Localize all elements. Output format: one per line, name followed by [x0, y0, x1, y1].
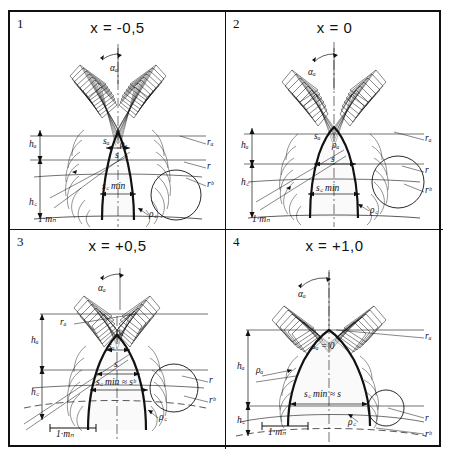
panel-3: 3 x = +0,5 [10, 230, 226, 449]
leader-ra [180, 136, 206, 144]
leader-ra [336, 330, 424, 338]
panel-4-sfmin-label: s꜀ min ≈ s [304, 390, 341, 400]
panel-3-hf-label: h꜀ [31, 388, 39, 398]
leader-r [388, 408, 424, 418]
panel-2-alpha-a-label: αₐ [308, 68, 316, 78]
panel-3-sfmin-label: s꜀ min ≈ sᵇ [96, 378, 136, 388]
alpha-a-arc [314, 54, 334, 62]
panel-2-rho-f-label: ρ꜀ [370, 206, 378, 216]
root-fillet-arcs-left [67, 346, 86, 431]
panel-3-r-label: r [209, 376, 213, 386]
panel-3-ra-label: rₐ [60, 318, 66, 328]
leader-rb [376, 428, 424, 434]
panel-3-alpha-a-label: αₐ [98, 284, 106, 294]
panel-1-rho-a-label: ρₐ [120, 140, 127, 150]
panel-2-rho-a-label: ρₐ [332, 141, 339, 151]
panel-4-ha-label: hₐ [237, 362, 245, 372]
panel-4-rb-label: rᵇ [425, 430, 431, 440]
leader-ra [394, 132, 424, 140]
rack-cutter-left-family [282, 70, 328, 126]
leader-rb [186, 178, 206, 186]
panel-3-ha-label: hₐ [31, 336, 39, 346]
rack-cutter-right-family [340, 70, 386, 126]
panel-2: 2 x = 0 [226, 12, 443, 230]
panel-3-rb-label: rᵇ [209, 396, 215, 406]
rack-cutter-right-family [119, 65, 166, 118]
panel-1-drawing [10, 12, 226, 230]
alpha-a-arc [300, 278, 326, 288]
panel-1-hf-label: h꜀ [29, 198, 37, 208]
panel-1-ha-label: hₐ [29, 140, 37, 150]
panel-3-rho-a-label: ρₐ [116, 328, 123, 338]
rack-cutter-left-family [74, 296, 118, 347]
panel-1-s-label: s [115, 151, 119, 161]
leader-r [184, 162, 206, 168]
panel-1-sa-label: sₐ [103, 137, 109, 147]
figure-frame: 1 x = -0,5 [8, 10, 441, 447]
panel-2-s-label: s [331, 155, 335, 165]
alpha-a-arc [102, 274, 120, 280]
panel-4-drawing [226, 230, 443, 449]
root-circle-line [236, 429, 426, 437]
panel-4-scale-label: 1·mₙ [268, 428, 286, 438]
figure-page: 1 x = -0,5 [0, 0, 451, 456]
panel-1-sfmin-label: s꜀ min [102, 182, 125, 192]
panel-2-ha-label: hₐ [241, 141, 249, 151]
rack-cutter-right-family [116, 296, 160, 347]
panel-4-rho-f-label: ρ꜀ [348, 418, 356, 428]
base-circle-arc [150, 364, 198, 412]
panel-3-scale-label: 1·mₙ [56, 430, 74, 440]
panel-1-scale-label: 1·mₙ [38, 215, 56, 225]
panel-2-scale-label: 1·mₙ [252, 215, 270, 225]
panel-4: 4 x = +1,0 [226, 230, 443, 449]
panel-3-drawing [10, 230, 226, 449]
panel-2-drawing [226, 12, 443, 230]
panel-1-rb-label: rᵇ [207, 180, 213, 190]
panel-1-ra-label: rₐ [207, 138, 213, 148]
panel-4-sa-zero-label: sₐ = 0 [312, 342, 334, 352]
panel-3-rho-f-label: ρ꜀ [159, 413, 167, 423]
alpha-a-arc [102, 54, 118, 60]
panel-2-sa-label: sₐ [314, 132, 320, 142]
panel-3-sa-label: sₐ [108, 342, 114, 352]
panel-4-r-label: r [425, 414, 429, 424]
panel-3-s-label: s [114, 360, 118, 370]
panel-2-ra-label: rₐ [425, 134, 431, 144]
panel-1-r-label: r [207, 162, 211, 172]
base-circle-arc [368, 390, 404, 426]
panel-2-rb-label: rᵇ [425, 186, 431, 196]
panel-4-ra-label: rₐ [425, 332, 431, 342]
panel-2-r-label: r [425, 166, 429, 176]
panel-4-hf-label: h꜀ [237, 416, 245, 426]
panel-1-rho-f-label: ρ꜀ [149, 210, 157, 220]
base-circle-arc [151, 170, 201, 220]
panel-4-alpha-a-label: αₐ [298, 290, 306, 300]
panel-1: 1 x = -0,5 [10, 12, 226, 230]
panel-2-hf-label: h꜀ [241, 178, 249, 188]
leader-rb [404, 184, 424, 192]
panel-1-alpha-a-label: αₐ [110, 64, 118, 74]
panel-2-sfmin-label: s꜀ min [316, 184, 339, 194]
panel-4-rho-a-label: ρₐ [256, 366, 263, 376]
